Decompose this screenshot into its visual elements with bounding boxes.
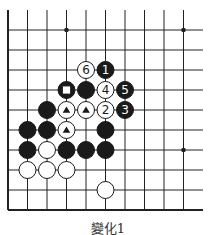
star-point-icon	[181, 148, 186, 153]
black-stone	[78, 82, 95, 99]
move-number: 3	[121, 103, 129, 117]
black-stone	[19, 122, 36, 139]
black-stone: 5	[117, 82, 134, 99]
white-stone	[97, 182, 114, 199]
square-mark-icon	[63, 86, 70, 93]
white-stone	[58, 122, 75, 139]
black-stone	[97, 142, 114, 159]
black-stone	[39, 102, 56, 119]
black-stone	[39, 122, 56, 139]
star-point-icon	[181, 28, 186, 33]
white-stone	[58, 162, 75, 179]
move-number: 2	[102, 103, 110, 117]
black-stone	[19, 142, 36, 159]
black-stone	[78, 142, 95, 159]
white-stone	[58, 102, 75, 119]
move-number: 6	[82, 63, 90, 77]
go-board-diagram: 614523	[0, 0, 216, 215]
move-number: 5	[121, 83, 129, 97]
black-stone	[97, 122, 114, 139]
white-stone: 2	[97, 102, 114, 119]
white-stone	[39, 162, 56, 179]
white-stone	[78, 102, 95, 119]
white-stone	[39, 142, 56, 159]
black-stone: 3	[117, 102, 134, 119]
white-stone: 4	[97, 82, 114, 99]
black-stone	[58, 82, 75, 99]
white-stone	[19, 162, 36, 179]
white-stone: 6	[78, 62, 95, 79]
black-stone: 1	[97, 62, 114, 79]
black-stone	[58, 142, 75, 159]
move-number: 1	[102, 63, 110, 77]
star-point-icon	[64, 28, 69, 33]
diagram-caption: 變化1	[0, 218, 216, 235]
move-number: 4	[102, 83, 110, 97]
